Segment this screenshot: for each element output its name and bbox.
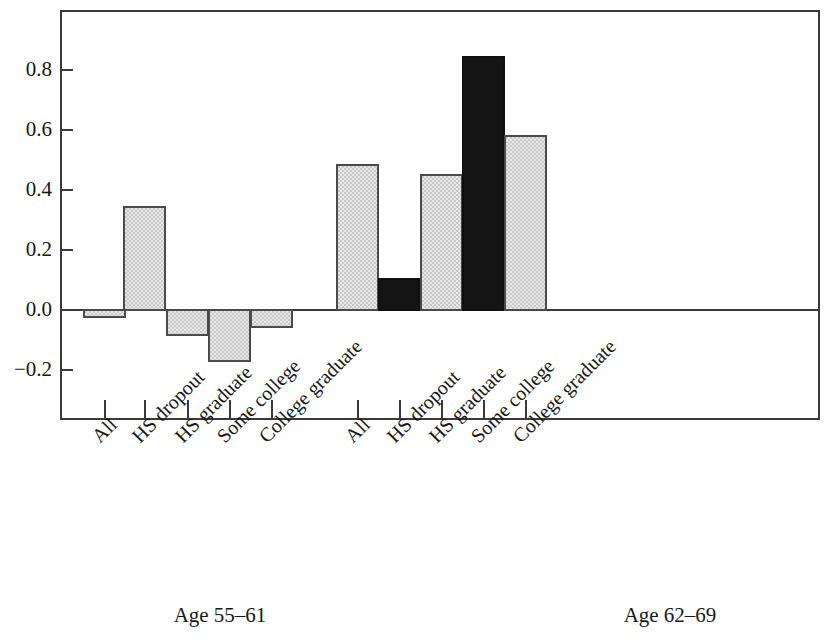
bar-age55-61-some-college <box>208 309 251 362</box>
plot-area <box>62 12 818 418</box>
y-tick-label-0.6: 0.6 <box>26 119 52 140</box>
y-axis-labels: 0.8 0.6 0.4 0.2 0.0 −0.2 <box>0 0 52 641</box>
y-tick-0.4 <box>62 189 73 191</box>
y-tick-label--0.2: −0.2 <box>14 359 52 380</box>
y-tick--0.2 <box>62 369 73 371</box>
bar-age62-69-hs-dropout <box>378 278 421 311</box>
chart-page: 0.8 0.6 0.4 0.2 0.0 −0.2 <box>0 0 832 641</box>
bar-age55-61-all <box>83 309 126 318</box>
bar-age55-61-college-graduate <box>250 309 293 328</box>
plot-frame <box>60 10 820 420</box>
bar-age62-69-hs-graduate <box>420 174 463 311</box>
y-tick-0.6 <box>62 129 73 131</box>
bar-age62-69-college-graduate <box>504 135 547 311</box>
group-label-age-62-69: Age 62–69 <box>570 605 770 626</box>
y-tick-label-0.8: 0.8 <box>26 59 52 80</box>
y-tick-label-0.4: 0.4 <box>26 179 52 200</box>
y-tick-label-0.2: 0.2 <box>26 239 52 260</box>
y-tick-0.8 <box>62 69 73 71</box>
bar-age62-69-all <box>336 164 379 311</box>
bar-age55-61-hs-dropout <box>123 206 166 311</box>
y-tick-0.2 <box>62 249 73 251</box>
bar-age55-61-hs-graduate <box>166 309 209 336</box>
y-tick-label-0.0: 0.0 <box>26 299 52 320</box>
bar-age62-69-some-college <box>462 56 505 311</box>
group-label-age-55-61: Age 55–61 <box>120 605 320 626</box>
